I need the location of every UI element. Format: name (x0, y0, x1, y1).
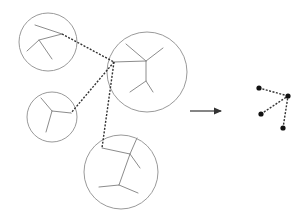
inter-cluster-links (62, 34, 114, 148)
cluster-1 (19, 13, 77, 71)
abstract-graph (256, 85, 290, 130)
tree-branch (146, 48, 163, 61)
graph-node-n1 (256, 85, 261, 90)
tree-branch (41, 98, 52, 111)
clusters-layer (19, 13, 187, 209)
tree-branch (46, 111, 52, 132)
tree-branch (102, 148, 130, 154)
tree-branch (99, 185, 119, 187)
tree-branch (130, 154, 140, 168)
tree-branch (39, 40, 52, 59)
graph-node-hub (285, 93, 290, 98)
graph-node-n4 (280, 125, 285, 130)
tree-branch (52, 111, 71, 113)
cluster-boundary-circle (107, 32, 187, 112)
tree-branch (35, 25, 62, 34)
cluster-diagram (0, 0, 304, 212)
cluster-4 (84, 135, 158, 209)
dashed-link-cluster-2-cluster-4 (102, 62, 114, 148)
cluster-3 (27, 92, 77, 142)
tree-branch (119, 154, 130, 185)
cluster-boundary-circle (84, 135, 158, 209)
tree-branch (130, 138, 137, 154)
tree-branch (126, 44, 146, 61)
cluster-2 (107, 32, 187, 112)
tree-branch (130, 81, 146, 92)
tree-branch (146, 61, 153, 92)
graph-edge (259, 88, 288, 96)
tree-branch (119, 185, 138, 193)
cluster-boundary-circle (27, 92, 77, 142)
graph-edge (261, 96, 288, 114)
dashed-link-cluster-1-cluster-2 (62, 34, 114, 62)
tree-branch (114, 61, 146, 62)
cluster-boundary-circle (19, 13, 77, 71)
graph-edge (283, 96, 288, 128)
graph-node-n3 (258, 111, 263, 116)
